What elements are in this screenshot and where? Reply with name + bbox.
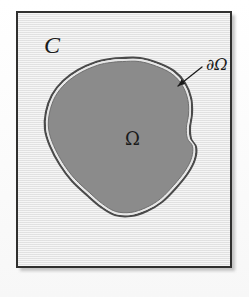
boundary-label: ∂Ω — [206, 57, 228, 73]
region-label: Ω — [125, 130, 140, 148]
ambient-set-label: C — [44, 33, 60, 57]
figure-plate: C Ω ∂Ω — [16, 11, 232, 268]
figure-canvas: C Ω ∂Ω — [0, 0, 249, 297]
boundary-annotation-arrow — [178, 67, 202, 86]
